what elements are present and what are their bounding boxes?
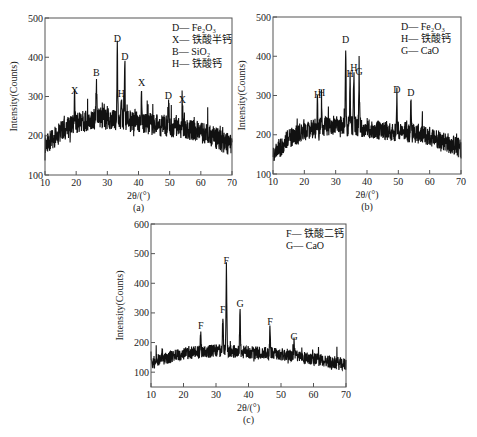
y-tick-label: 300 bbox=[134, 307, 149, 318]
y-tick-label: 100 bbox=[28, 170, 43, 181]
peak-label: H bbox=[118, 88, 125, 99]
panel-label: (a) bbox=[133, 202, 144, 214]
x-tick-label: 30 bbox=[211, 389, 221, 400]
x-tick-label: 30 bbox=[102, 177, 112, 188]
xrd-chart-b: 102030405060701002003004005002θ/(°)Inten… bbox=[236, 12, 466, 214]
y-tick-label: 400 bbox=[256, 51, 271, 62]
peak-label: D bbox=[114, 33, 121, 44]
y-tick-label: 100 bbox=[256, 169, 271, 180]
y-tick-label: 200 bbox=[28, 130, 43, 141]
y-axis-title: Intensity(Counts) bbox=[114, 271, 126, 341]
peak-label: D bbox=[121, 51, 128, 62]
y-tick-label: 500 bbox=[134, 248, 149, 259]
x-tick-label: 40 bbox=[134, 177, 144, 188]
y-tick-label: 600 bbox=[134, 219, 149, 230]
panel-label: (b) bbox=[361, 201, 373, 213]
peak-label: B bbox=[93, 67, 100, 78]
peak-label: D bbox=[165, 90, 172, 101]
peak-label: D bbox=[342, 34, 349, 45]
legend-entry: D— Fe₂O₃ bbox=[401, 21, 445, 32]
panel-label: (c) bbox=[243, 414, 254, 426]
peak-label: G bbox=[290, 331, 297, 342]
y-axis-title: Intensity(Counts) bbox=[8, 62, 20, 132]
y-tick-label: 200 bbox=[256, 129, 271, 140]
y-tick-label: 500 bbox=[28, 13, 43, 24]
x-tick-label: 60 bbox=[196, 177, 206, 188]
xrd-chart-c: 102030405060701002003004005006002θ/(°)In… bbox=[114, 219, 351, 427]
peak-label: F bbox=[220, 304, 226, 315]
legend-entry: F— 铁酸二钙 bbox=[286, 227, 344, 239]
x-tick-label: 40 bbox=[244, 389, 254, 400]
peak-label: D bbox=[407, 87, 414, 98]
x-tick-label: 20 bbox=[299, 176, 309, 187]
x-tick-label: 70 bbox=[456, 176, 466, 187]
x-tick-label: 70 bbox=[341, 389, 351, 400]
y-tick-label: 300 bbox=[28, 91, 43, 102]
x-tick-label: 50 bbox=[165, 177, 175, 188]
x-axis-title: 2θ/(°) bbox=[355, 189, 378, 201]
legend-entry: B— SiO₂ bbox=[172, 46, 210, 57]
peak-label: F bbox=[267, 316, 273, 327]
x-axis-title: 2θ/(°) bbox=[127, 190, 150, 202]
x-tick-label: 60 bbox=[309, 389, 319, 400]
x-tick-label: 40 bbox=[362, 176, 372, 187]
y-tick-label: 400 bbox=[134, 278, 149, 289]
xrd-chart-a: 102030405060701002003004005002θ/(°)Inten… bbox=[8, 13, 237, 215]
peak-label: X bbox=[138, 77, 146, 88]
peak-label: X bbox=[179, 94, 187, 105]
x-tick-label: 60 bbox=[425, 176, 435, 187]
y-tick-label: 100 bbox=[134, 367, 149, 378]
peak-label: G bbox=[236, 298, 243, 309]
diffraction-trace bbox=[151, 262, 346, 370]
x-tick-label: 50 bbox=[393, 176, 403, 187]
legend-entry: H— 铁酸钙 bbox=[172, 57, 222, 69]
x-tick-label: 20 bbox=[179, 389, 189, 400]
x-tick-label: 10 bbox=[146, 389, 156, 400]
legend-entry: G— CaO bbox=[286, 240, 324, 251]
legend-entry: G— CaO bbox=[401, 45, 439, 56]
y-tick-label: 200 bbox=[134, 337, 149, 348]
x-tick-label: 50 bbox=[276, 389, 286, 400]
x-tick-label: 70 bbox=[227, 177, 237, 188]
x-tick-label: 30 bbox=[331, 176, 341, 187]
peak-label: D bbox=[393, 84, 400, 95]
peak-label: H bbox=[318, 87, 325, 98]
peak-label: F bbox=[198, 320, 204, 331]
diffraction-trace bbox=[273, 51, 461, 161]
x-tick-label: 20 bbox=[71, 177, 81, 188]
legend-entry: X— 铁酸半钙 bbox=[172, 33, 232, 45]
legend-entry: H— 铁酸钙 bbox=[401, 32, 451, 44]
y-axis-title: Intensity(Counts) bbox=[236, 61, 248, 131]
x-axis-title: 2θ/(°) bbox=[237, 402, 260, 414]
peak-label: X bbox=[71, 85, 79, 96]
legend-entry: D— Fe₂O₃ bbox=[172, 22, 216, 33]
y-tick-label: 500 bbox=[256, 12, 271, 23]
xrd-figure: 102030405060701002003004005002θ/(°)Inten… bbox=[0, 0, 477, 437]
y-tick-label: 400 bbox=[28, 52, 43, 63]
y-tick-label: 300 bbox=[256, 90, 271, 101]
peak-label: F bbox=[224, 255, 230, 266]
peak-label: G bbox=[356, 66, 363, 77]
